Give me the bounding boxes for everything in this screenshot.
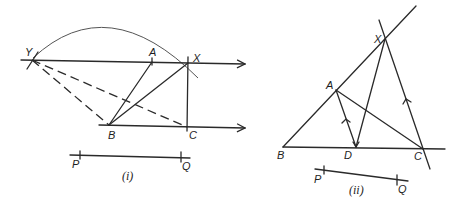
dashed-line-yc [32,60,187,127]
label-a: A [148,46,156,58]
bottom-parallel-line [99,125,245,128]
segment-line [315,169,408,181]
figure-i: Y A X B C P Q (i) [21,27,245,183]
label-d: D [344,149,352,161]
parallel-mark-ad [342,119,350,123]
line-xc [379,20,430,169]
label-b: B [277,149,284,161]
label-p: P [72,158,80,170]
dashed-line-yb [32,60,109,125]
figure-ii: A B D C X P Q (ii) [277,6,445,197]
top-parallel-line [21,60,245,64]
line-ac [336,90,423,149]
label-x: X [373,33,382,45]
label-x: X [192,52,201,64]
line-ba [109,62,152,125]
line-ba-extended [283,6,416,147]
label-q: Q [398,183,407,195]
label-c: C [189,129,197,141]
label-a: A [325,79,333,91]
caption-ii: (ii) [349,183,364,197]
label-y: Y [25,46,33,58]
label-c: C [414,150,422,162]
label-b: B [108,129,115,141]
geometry-figures: Y A X B C P Q (i) A B [0,0,464,204]
construction-arc [33,27,198,78]
caption-i: (i) [122,169,133,183]
segment-line [70,155,190,158]
line-dx [356,39,385,147]
line-bx [109,63,188,125]
label-p: P [314,173,322,185]
label-q: Q [182,160,191,172]
